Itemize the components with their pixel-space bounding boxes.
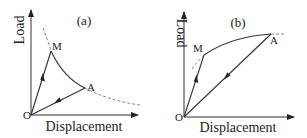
point-label-A-a: A	[87, 81, 95, 93]
panel-b: Load Displacement O (b) M A	[174, 12, 294, 135]
panel-label-b: (b)	[230, 15, 245, 30]
point-label-M-b: M	[193, 42, 203, 54]
origin-label-a: O	[23, 109, 31, 121]
load-displacement-diagram: Load Displacement O (a) M A Load Displac…	[0, 0, 307, 138]
x-axis-label-a: Displacement	[46, 119, 123, 134]
softening-curve-a	[51, 51, 85, 88]
point-label-A-b: A	[270, 34, 278, 46]
y-axis-label-b: Load	[174, 19, 189, 48]
arrow-down-left-icon-a	[54, 97, 62, 103]
origin-label-b: O	[175, 111, 183, 123]
loading-line-a	[31, 51, 51, 115]
panel-a: Load Displacement O (a) M A	[12, 10, 140, 134]
envelope-curve-dashed-a	[43, 28, 51, 51]
x-axis-label-b: Displacement	[200, 120, 277, 135]
y-axis-label-a: Load	[12, 16, 27, 45]
panel-label-a: (a)	[77, 13, 91, 28]
hardening-curve-b	[204, 34, 271, 55]
point-label-M-a: M	[52, 40, 62, 52]
